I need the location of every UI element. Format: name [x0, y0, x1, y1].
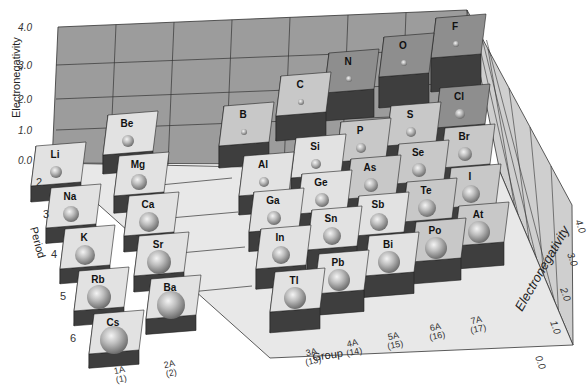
element-symbol: Te — [421, 185, 432, 196]
period-tick: 6 — [70, 332, 76, 344]
atomic-radius-sphere — [139, 212, 159, 232]
element-symbol: Ca — [142, 199, 155, 210]
z-tick: 0.0 — [18, 155, 32, 166]
atomic-radius-sphere — [315, 193, 329, 207]
atomic-radius-sphere — [425, 237, 447, 259]
element-symbol: S — [407, 109, 414, 120]
element-block-po: Po — [411, 218, 466, 284]
element-symbol: Ga — [266, 195, 280, 206]
atomic-radius-sphere — [241, 129, 247, 135]
atomic-radius-sphere — [401, 60, 407, 66]
right-z-tick: 4.0 — [573, 218, 587, 235]
element-symbol: P — [357, 125, 364, 136]
group-tick-1a: 1A(1) — [113, 364, 128, 385]
atomic-radius-sphere — [412, 163, 426, 177]
element-symbol: Po — [429, 225, 442, 236]
element-symbol: Sr — [153, 239, 164, 250]
atomic-radius-sphere — [131, 174, 147, 190]
element-block-f: F — [431, 14, 486, 92]
element-block-c: C — [276, 72, 331, 141]
right-z-tick: 0.0 — [533, 354, 548, 371]
period-tick: 2 — [36, 176, 42, 188]
element-symbol: Mg — [131, 159, 145, 170]
element-symbol: Rb — [91, 274, 104, 285]
element-symbol: N — [344, 56, 351, 67]
atomic-radius-sphere — [75, 245, 95, 265]
atomic-radius-sphere — [147, 250, 171, 274]
element-symbol: Tl — [290, 275, 299, 286]
element-symbol: C — [296, 79, 303, 90]
element-symbol: B — [239, 109, 246, 120]
element-symbol: Br — [458, 131, 469, 142]
element-block-tl: Tl — [270, 268, 325, 333]
atomic-radius-sphere — [50, 166, 62, 178]
atomic-radius-sphere — [370, 213, 388, 231]
element-symbol: Pb — [332, 257, 345, 268]
atomic-radius-sphere — [346, 76, 352, 82]
period-tick: 3 — [43, 208, 49, 220]
z-tick: 1.0 — [18, 125, 32, 136]
atomic-radius-sphere — [157, 291, 185, 319]
atomic-radius-sphere — [462, 185, 480, 203]
atomic-radius-sphere — [284, 287, 306, 309]
atomic-radius-sphere — [87, 285, 111, 309]
atomic-radius-sphere — [298, 99, 304, 105]
element-block-bi: Bi — [364, 232, 419, 297]
atomic-radius-sphere — [418, 199, 436, 217]
left-axis-title: Electronegativity — [10, 37, 22, 118]
element-symbol: K — [80, 232, 88, 243]
element-symbol: Be — [121, 118, 134, 129]
element-symbol: I — [469, 171, 472, 182]
atomic-radius-sphere — [458, 147, 472, 161]
atomic-radius-sphere — [323, 227, 341, 245]
atomic-radius-sphere — [122, 135, 134, 147]
element-symbol: Sn — [325, 213, 338, 224]
group-number: (14) — [345, 345, 363, 358]
element-symbol: Si — [310, 141, 320, 152]
period-tick: 4 — [51, 248, 57, 260]
element-symbol: Cl — [454, 91, 464, 102]
atomic-radius-sphere — [63, 206, 79, 222]
atomic-radius-sphere — [272, 246, 290, 264]
period-axis-title: Period — [28, 225, 48, 259]
element-symbol: Ge — [314, 177, 328, 188]
element-symbol: Na — [64, 191, 77, 202]
element-symbol: O — [399, 40, 407, 51]
element-symbol: Se — [412, 147, 425, 158]
period-tick: 5 — [60, 290, 66, 302]
element-symbol: Bi — [383, 239, 393, 250]
element-block-ba: Ba — [146, 275, 201, 334]
atomic-radius-sphere — [406, 127, 416, 137]
atomic-radius-sphere — [267, 211, 281, 225]
atomic-radius-sphere — [453, 41, 459, 47]
element-symbol: Sb — [372, 199, 385, 210]
group-tick-2a: 2A(2) — [163, 358, 178, 379]
element-symbol: As — [364, 162, 377, 173]
z-tick: 4.0 — [18, 22, 32, 33]
element-block-n: N — [324, 49, 379, 121]
atomic-radius-sphere — [378, 251, 400, 273]
group-number: (2) — [165, 367, 178, 379]
atomic-radius-sphere — [455, 109, 465, 119]
atomic-radius-sphere — [468, 221, 490, 243]
electronegativity-3d-chart: FONCBClSPSiAlBrSeAsGeGaITeSbSnInAtPoBiPb… — [0, 0, 587, 391]
element-symbol: F — [452, 21, 458, 32]
atomic-radius-sphere — [100, 326, 128, 354]
element-symbol: Al — [258, 159, 268, 170]
atomic-radius-sphere — [364, 178, 378, 192]
element-symbol: In — [276, 232, 285, 243]
atomic-radius-sphere — [356, 143, 366, 153]
atomic-radius-sphere — [311, 159, 321, 169]
group-number: (1) — [115, 373, 128, 385]
element-block-cs: Cs — [89, 310, 144, 368]
atomic-radius-sphere — [259, 177, 269, 187]
atomic-radius-sphere — [328, 269, 350, 291]
element-block-o: O — [379, 33, 434, 108]
element-symbol: Li — [51, 149, 60, 160]
element-symbol: At — [473, 209, 484, 220]
